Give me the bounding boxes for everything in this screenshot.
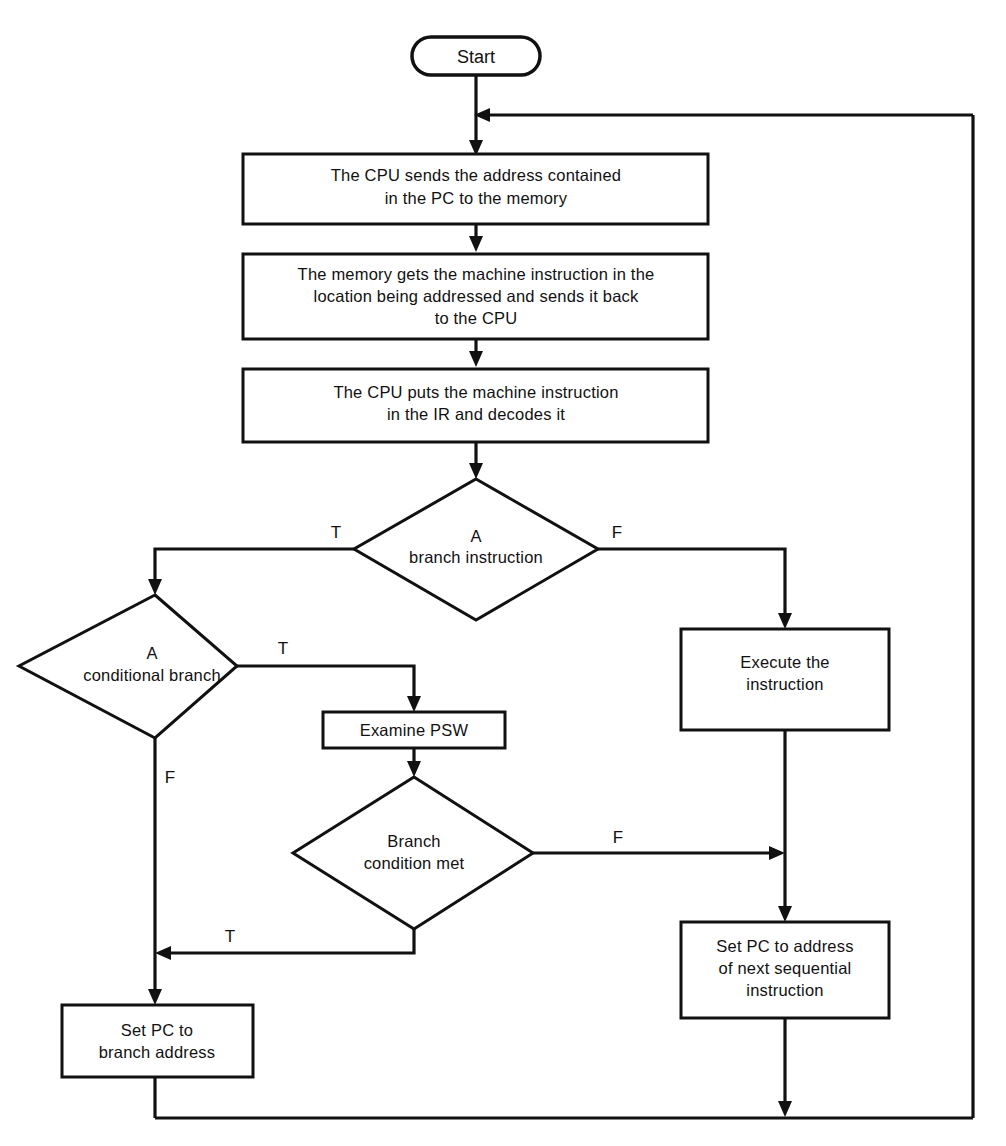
edge-conditional-branch-true — [237, 666, 421, 712]
node-conditional-branch[interactable]: A conditional branch — [19, 595, 237, 738]
node-memory-fetch-line3: to the CPU — [435, 309, 518, 327]
edge-decode-to-branch-instruction — [469, 442, 483, 479]
edge-execute-to-set-pc-sequential — [778, 730, 792, 922]
edge-send-address-to-memory-fetch — [469, 224, 483, 252]
edge-label-branch-condition-true: T — [225, 927, 235, 946]
node-memory-fetch-line1: The memory gets the machine instruction … — [298, 265, 655, 283]
node-set-pc-branch-line2: branch address — [99, 1043, 216, 1061]
node-decode[interactable]: The CPU puts the machine instruction in … — [243, 369, 708, 442]
edge-feedback-loop-into-spine — [474, 108, 973, 122]
node-branch-instruction-line1: A — [470, 527, 481, 545]
edge-label-branch-instruction-false: F — [612, 523, 622, 542]
node-conditional-branch-line1: A — [146, 644, 157, 662]
node-execute-line2: instruction — [746, 675, 823, 693]
edge-branch-condition-true — [155, 929, 414, 960]
node-start[interactable]: Start — [412, 37, 540, 75]
node-conditional-branch-line2: conditional branch — [83, 666, 221, 684]
node-set-pc-sequential-line3: instruction — [746, 981, 823, 999]
edge-branch-condition-false — [533, 846, 785, 860]
edge-conditional-branch-false — [148, 738, 162, 1005]
flowchart-canvas: Start The CPU sends the address containe… — [0, 0, 1006, 1146]
edge-set-pc-sequential-to-bottom-bus — [778, 1018, 792, 1117]
node-memory-fetch[interactable]: The memory gets the machine instruction … — [243, 254, 708, 339]
node-examine-psw[interactable]: Examine PSW — [323, 712, 505, 748]
edge-label-conditional-branch-true: T — [278, 639, 288, 658]
node-send-address-line1: The CPU sends the address contained — [331, 166, 621, 184]
edge-examine-psw-to-branch-condition — [407, 748, 421, 777]
node-execute[interactable]: Execute the instruction — [681, 629, 889, 730]
node-set-pc-sequential-line1: Set PC to address — [716, 937, 853, 955]
node-branch-condition-met[interactable]: Branch condition met — [293, 777, 533, 929]
node-execute-line1: Execute the — [740, 653, 829, 671]
node-examine-psw-line1: Examine PSW — [360, 721, 469, 739]
node-decode-line2: in the IR and decodes it — [387, 405, 565, 423]
node-branch-condition-met-line1: Branch — [387, 832, 440, 850]
node-set-pc-branch-line1: Set PC to — [121, 1021, 193, 1039]
node-send-address[interactable]: The CPU sends the address contained in t… — [243, 154, 708, 224]
node-memory-fetch-line2: location being addressed and sends it ba… — [314, 287, 639, 305]
edge-label-conditional-branch-false: F — [165, 768, 175, 787]
flowchart-svg: Start The CPU sends the address containe… — [0, 0, 1006, 1146]
node-branch-condition-met-line2: condition met — [364, 854, 465, 872]
edge-memory-fetch-to-decode — [469, 339, 483, 367]
edge-label-branch-condition-false: F — [613, 828, 623, 847]
node-decode-line1: The CPU puts the machine instruction — [333, 383, 618, 401]
node-branch-instruction-line2: branch instruction — [409, 548, 543, 566]
node-set-pc-sequential[interactable]: Set PC to address of next sequential ins… — [681, 922, 889, 1018]
node-start-label: Start — [457, 47, 495, 67]
edge-label-branch-instruction-true: T — [331, 523, 341, 542]
node-send-address-line2: in the PC to the memory — [385, 189, 568, 207]
node-set-pc-sequential-line2: of next sequential — [719, 959, 852, 977]
node-set-pc-branch[interactable]: Set PC to branch address — [62, 1005, 253, 1077]
edge-branch-instruction-false — [598, 549, 792, 629]
node-branch-instruction[interactable]: A branch instruction — [354, 479, 598, 620]
edge-branch-instruction-true — [148, 549, 354, 595]
